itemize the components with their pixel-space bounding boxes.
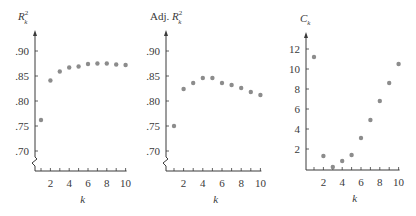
data-point [331,165,335,169]
chart-title: R2k [17,9,29,26]
data-point [359,136,363,140]
y-tick-label: .75 [146,120,160,132]
data-point [95,61,99,65]
data-point [105,61,109,65]
data-point [58,69,62,73]
data-point [249,90,253,94]
x-tick-label: 6 [85,177,91,189]
y-tick-label: 6 [295,103,301,115]
y-axis-arrow-icon [164,30,168,36]
data-point [76,64,80,68]
data-point [181,87,185,91]
data-point [321,154,325,158]
axis-break-icon [163,157,168,171]
y-tick-label: .80 [15,95,29,107]
x-tick-label: 2 [321,176,327,188]
y-tick-label: .70 [15,145,29,157]
y-tick-label: 10 [289,63,301,75]
y-axis-arrow-icon [304,32,308,38]
y-tick-label: .70 [146,145,160,157]
x-axis-label: k [80,193,86,205]
data-point [191,81,195,85]
chart-panel-2: Adj. R2k246810k.70.75.80.85.90 [146,9,266,205]
y-tick-label: .80 [146,95,160,107]
x-tick-label: 4 [339,176,345,188]
x-tick-label: 8 [104,177,110,189]
x-tick-label: 6 [219,177,225,189]
data-point [48,78,52,82]
x-tick-label: 10 [255,177,267,189]
x-tick-label: 4 [66,177,72,189]
x-tick-label: 2 [181,177,187,189]
y-tick-label: 8 [295,83,301,95]
data-point [349,153,353,157]
y-tick-label: 12 [289,43,300,55]
data-point [312,55,316,59]
y-tick-label: .90 [15,45,29,57]
figure: R2k246810k.70.75.80.85.90Adj. R2k246810k… [0,0,416,216]
x-axis-label: k [213,193,219,205]
y-tick-label: 2 [295,143,301,155]
data-point [258,93,262,97]
data-point [239,86,243,90]
x-tick-label: 4 [200,177,206,189]
data-point [210,76,214,80]
data-point [39,118,43,122]
y-tick-label: .85 [146,70,160,82]
x-tick-label: 8 [377,176,383,188]
data-point [172,124,176,128]
x-tick-label: 8 [238,177,244,189]
y-axis-arrow-icon [33,30,37,36]
x-tick-label: 2 [48,177,54,189]
x-axis-label: k [352,192,358,204]
y-tick-label: .90 [146,45,160,57]
data-point [229,83,233,87]
data-point [378,99,382,103]
y-tick-label: .75 [15,120,29,132]
charts-canvas: R2k246810k.70.75.80.85.90Adj. R2k246810k… [0,0,416,216]
data-point [114,62,118,66]
x-tick-label: 10 [120,177,132,189]
chart-title: Ck [300,12,311,27]
data-point [340,159,344,163]
axis-break-icon [32,157,37,171]
x-tick-label: 10 [393,176,405,188]
chart-panel-1: R2k246810k.70.75.80.85.90 [15,9,131,205]
chart-title: Adj. R2k [150,9,183,26]
data-point [396,62,400,66]
data-point [201,76,205,80]
data-point [220,81,224,85]
data-point [86,62,90,66]
data-point [67,65,71,69]
chart-panel-3: Ck246810k24681012 [289,12,405,204]
y-tick-label: .85 [15,70,29,82]
data-point [387,81,391,85]
data-point [368,118,372,122]
x-tick-label: 6 [358,176,364,188]
y-tick-label: 4 [295,123,301,135]
data-point [123,63,127,67]
